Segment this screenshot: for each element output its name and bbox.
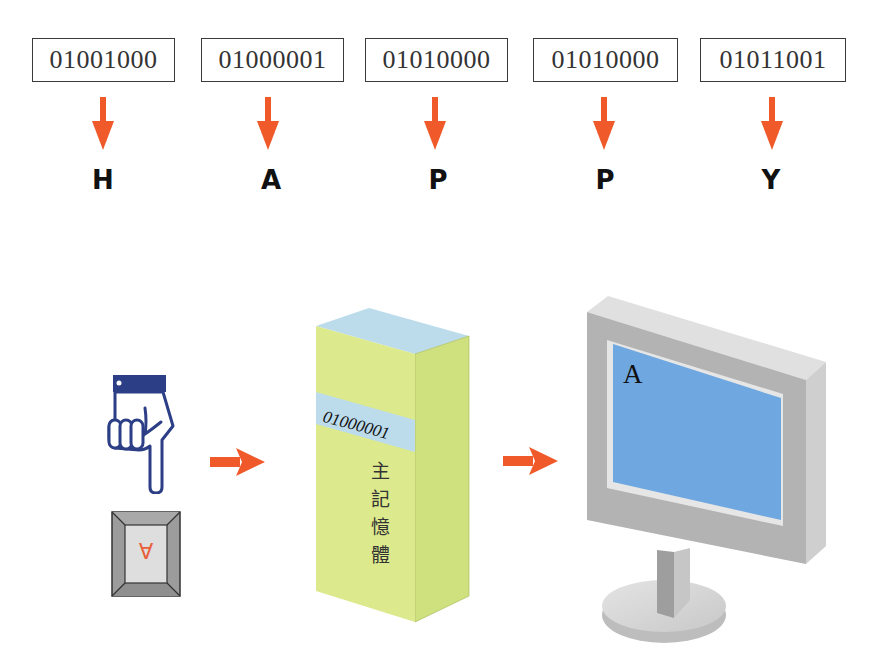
right-arrow-icon	[210, 447, 266, 477]
char-h: H	[83, 165, 123, 195]
binary-box-p2: 01010000	[533, 38, 678, 82]
down-arrow-icon	[760, 97, 784, 151]
char-a: A	[251, 165, 291, 195]
down-arrow-icon	[256, 97, 280, 151]
down-arrow-icon	[423, 97, 447, 151]
memory-label-char-4: 體	[368, 542, 392, 569]
screen-character: A	[623, 359, 643, 390]
binary-box-p1: 01010000	[365, 38, 508, 82]
binary-box-h: 01001000	[32, 38, 175, 82]
memory-label-char-3: 憶	[368, 514, 392, 541]
char-y: Y	[751, 165, 791, 195]
binary-code: 01010000	[383, 45, 491, 75]
key-letter: A	[134, 538, 158, 562]
char-p1: P	[418, 165, 458, 195]
binary-code: 01011001	[719, 45, 826, 75]
down-arrow-icon	[91, 97, 115, 151]
binary-box-y: 01011001	[700, 38, 846, 82]
monitor-display	[580, 290, 840, 650]
right-arrow-icon	[503, 446, 559, 476]
binary-box-a: 01000001	[201, 38, 344, 82]
memory-label-char-1: 主	[368, 458, 392, 485]
main-memory-block	[312, 306, 472, 626]
pointing-hand-icon	[105, 370, 175, 494]
binary-code: 01000001	[219, 45, 327, 75]
down-arrow-icon	[592, 97, 616, 151]
char-p2: P	[585, 165, 625, 195]
binary-code: 01010000	[552, 45, 660, 75]
binary-code: 01001000	[50, 45, 158, 75]
memory-label-char-2: 記	[368, 486, 392, 513]
